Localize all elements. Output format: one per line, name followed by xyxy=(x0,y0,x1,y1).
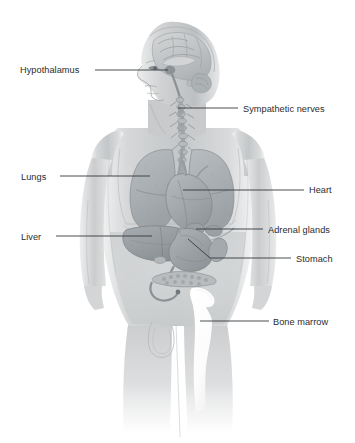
label-liver: Liver xyxy=(21,232,41,242)
label-hypothalamus: Hypothalamus xyxy=(20,65,80,75)
anatomy-diagram-svg: Hypothalamus Sympathetic nerves Lungs He… xyxy=(0,0,355,443)
anatomy-figure: Hypothalamus Sympathetic nerves Lungs He… xyxy=(0,0,355,443)
label-sympathetic-nerves: Sympathetic nerves xyxy=(243,104,325,114)
legs xyxy=(123,318,233,437)
head xyxy=(137,22,219,106)
label-heart: Heart xyxy=(309,185,332,195)
label-stomach: Stomach xyxy=(296,254,333,264)
label-lungs: Lungs xyxy=(21,172,47,182)
label-adrenal-glands: Adrenal glands xyxy=(268,225,330,235)
label-bone-marrow: Bone marrow xyxy=(273,317,329,327)
